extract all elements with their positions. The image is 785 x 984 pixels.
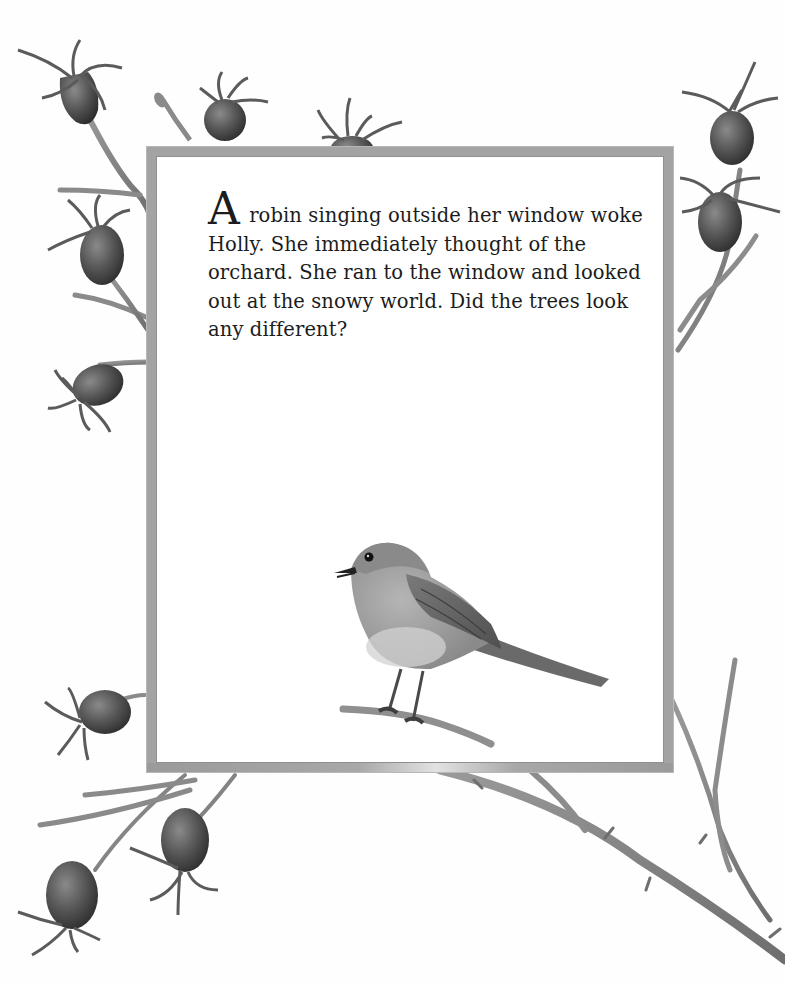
drop-cap: A (208, 183, 240, 234)
story-frame: A robin singing outside her window woke … (147, 147, 673, 772)
story-body: robin singing outside her window woke Ho… (208, 204, 643, 341)
story-text: A robin singing outside her window woke … (208, 194, 648, 345)
rosehip-6 (682, 62, 778, 165)
robin-illustration (321, 529, 621, 759)
rosehip-2 (48, 195, 130, 285)
robin-eye (365, 553, 374, 562)
rosehip-9 (130, 808, 218, 915)
rosehip-4 (152, 72, 268, 141)
twig (343, 709, 491, 744)
rosehip-8 (45, 688, 131, 760)
rosehip-3 (48, 357, 129, 432)
storybook-page: A robin singing outside her window woke … (0, 0, 785, 984)
rosehip-7 (680, 178, 780, 252)
rosehip-10 (18, 861, 100, 955)
rosehip-1 (18, 40, 122, 124)
